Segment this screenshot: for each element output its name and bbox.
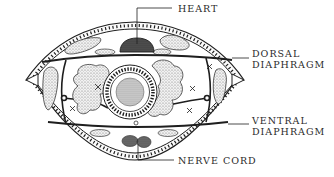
ventral-diaphragm-label: VENTRAL DIAPHRAGM	[252, 115, 325, 137]
nerve-cord-label: NERVE CORD	[178, 155, 257, 166]
gut	[103, 65, 157, 119]
ventral-diaphragm-label-line1: VENTRAL	[252, 115, 325, 126]
heart-label: HEART	[178, 3, 218, 14]
dorsal-diaphragm-label: DORSAL DIAPHRAGM	[252, 48, 325, 70]
cross-section-diagram	[0, 0, 334, 177]
ventral-vessel	[134, 121, 138, 125]
ventral-diaphragm-label-line2: DIAPHRAGM	[252, 126, 325, 137]
dorsal-diaphragm-label-line1: DORSAL	[252, 48, 325, 59]
dorsal-diaphragm-label-line2: DIAPHRAGM	[252, 59, 325, 70]
